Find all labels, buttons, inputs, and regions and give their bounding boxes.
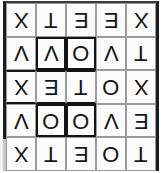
cell-letter: V xyxy=(14,42,29,64)
cell-letter: O xyxy=(42,110,59,132)
cell-letter: O xyxy=(102,76,119,98)
grid-cell-r1c3[interactable]: E xyxy=(66,3,96,37)
grid-cell-r3c3[interactable]: T xyxy=(66,70,96,104)
grid-cell-r5c1[interactable]: X xyxy=(6,137,36,171)
grid-cell-r4c3[interactable]: O xyxy=(66,104,96,138)
cell-letter: V xyxy=(104,42,119,64)
cell-letter: X xyxy=(14,143,29,165)
grid-cell-r3c4[interactable]: O xyxy=(96,70,126,104)
cell-letter: T xyxy=(74,76,87,98)
cell-letter: E xyxy=(104,9,119,31)
grid-cell-r1c2[interactable]: T xyxy=(36,3,66,37)
grid-cell-r5c3[interactable]: E xyxy=(66,137,96,171)
puzzle-grid-wrapper: X T E E X V V O V T X xyxy=(0,0,164,173)
grid-cell-r2c1[interactable]: V xyxy=(6,37,36,71)
cell-letter: O xyxy=(72,110,89,132)
grid-cell-r4c1[interactable]: V xyxy=(6,104,36,138)
cell-letter: O xyxy=(102,143,119,165)
cell-letter: V xyxy=(104,110,119,132)
cell-letter: E xyxy=(44,76,59,98)
cell-letter: O xyxy=(72,42,89,64)
grid-cell-r4c2[interactable]: O xyxy=(36,104,66,138)
grid-cell-r2c3[interactable]: O xyxy=(66,37,96,71)
cell-letter: X xyxy=(134,9,149,31)
grid-cell-r1c4[interactable]: E xyxy=(96,3,126,37)
cell-letter: X xyxy=(134,76,149,98)
grid-cell-r1c1[interactable]: X xyxy=(6,3,36,37)
cell-letter: X xyxy=(14,9,29,31)
grid-cell-r4c5[interactable]: E xyxy=(126,104,156,138)
grid-cell-r3c2[interactable]: E xyxy=(36,70,66,104)
cell-letter: X xyxy=(14,76,29,98)
grid-cell-r1c5[interactable]: X xyxy=(126,3,156,37)
cell-letter: T xyxy=(134,143,147,165)
grid-cell-r5c2[interactable]: T xyxy=(36,137,66,171)
cell-letter: T xyxy=(44,9,57,31)
cell-letter: E xyxy=(134,110,149,132)
cell-letter: V xyxy=(44,42,59,64)
grid-cell-r3c1[interactable]: X xyxy=(6,70,36,104)
grid-cell-r2c4[interactable]: V xyxy=(96,37,126,71)
grid-cell-r4c4[interactable]: V xyxy=(96,104,126,138)
cell-letter: V xyxy=(14,110,29,132)
cell-letter: T xyxy=(44,143,57,165)
grid-cell-r5c5[interactable]: T xyxy=(126,137,156,171)
grid-cell-r3c5[interactable]: X xyxy=(126,70,156,104)
cell-letter: E xyxy=(74,9,89,31)
cell-letter: T xyxy=(134,42,147,64)
grid-cell-r2c2[interactable]: V xyxy=(36,37,66,71)
grid-cell-r2c5[interactable]: T xyxy=(126,37,156,71)
cell-letter: E xyxy=(74,143,89,165)
letter-grid: X T E E X V V O V T X xyxy=(3,1,159,171)
grid-cell-r5c4[interactable]: O xyxy=(96,137,126,171)
